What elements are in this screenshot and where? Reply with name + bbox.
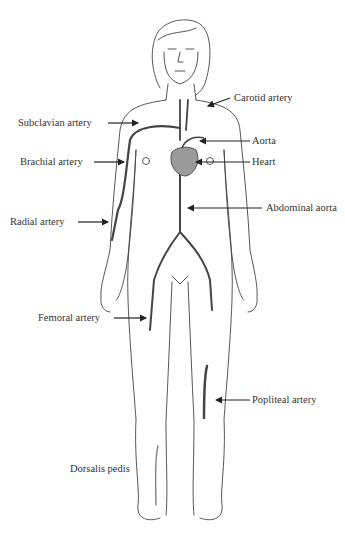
- label-subclavian-artery: Subclavian artery: [18, 117, 92, 129]
- torso-right: [196, 100, 257, 312]
- popliteal-vessel: [204, 366, 207, 418]
- label-femoral-artery: Femoral artery: [38, 312, 100, 324]
- label-abdominal-aorta: Abdominal aorta: [266, 202, 337, 214]
- label-brachial-artery: Brachial artery: [20, 156, 83, 168]
- abdominal-aorta-vessel: [150, 175, 180, 330]
- heart-shape: [171, 147, 198, 176]
- dorsalis-vessel: [156, 446, 159, 505]
- label-popliteal-artery: Popliteal artery: [252, 394, 316, 406]
- subclavian-artery: [112, 126, 180, 240]
- torso-left: [101, 100, 166, 312]
- label-radial-artery: Radial artery: [10, 216, 65, 228]
- label-heart: Heart: [252, 156, 275, 168]
- face-outline: [164, 52, 198, 84]
- label-carotid-artery: Carotid artery: [234, 92, 293, 104]
- arrow-carotid: [208, 98, 230, 106]
- body-outline-figure: [0, 0, 345, 534]
- label-aorta: Aorta: [252, 135, 276, 147]
- label-dorsalis-pedis: Dorsalis pedis: [70, 463, 130, 475]
